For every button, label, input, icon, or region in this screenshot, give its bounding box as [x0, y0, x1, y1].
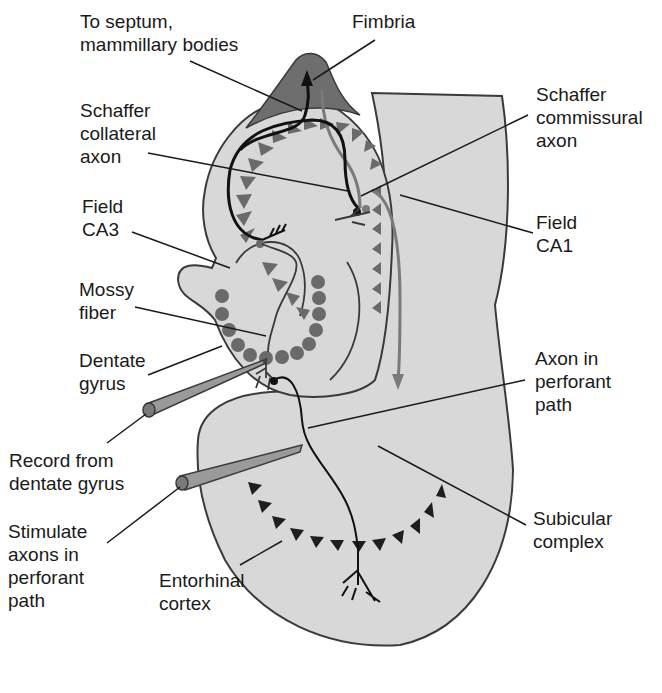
hippocampus-diagram: To septum, mammillary bodies Fimbria Sch… — [0, 0, 662, 693]
label-entorhinal: Entorhinal cortex — [159, 570, 250, 614]
diagram-canvas: To septum, mammillary bodies Fimbria Sch… — [0, 0, 662, 693]
label-record: Record from dentate gyrus — [9, 450, 124, 494]
label-fimbria: Fimbria — [352, 11, 416, 32]
label-schaffer-collateral: Schaffer collateral axon — [80, 100, 161, 167]
label-dentate-gyrus: Dentate gyrus — [79, 350, 151, 394]
label-septum: To septum, mammillary bodies — [80, 11, 238, 55]
label-stimulate: Stimulate axons in perforant path — [8, 521, 92, 611]
label-field-ca3: Field CA3 — [82, 196, 128, 240]
label-axon-perforant: Axon in perforant path — [535, 348, 616, 415]
label-schaffer-commissural: Schaffer commissural axon — [536, 84, 648, 151]
label-mossy-fiber: Mossy fiber — [79, 279, 139, 323]
perforant-terminal-dot — [270, 377, 278, 385]
label-subicular: Subicular complex — [533, 508, 618, 552]
label-field-ca1: Field CA1 — [536, 212, 582, 256]
